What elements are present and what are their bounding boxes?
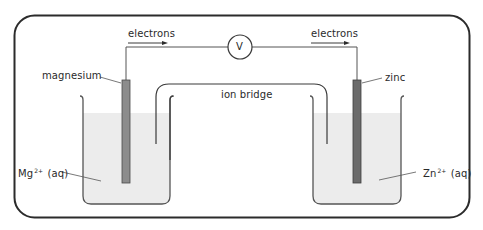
voltmeter-label: V (236, 42, 243, 52)
ion-bridge-label: ion bridge (221, 90, 273, 100)
zn-ion-state: (aq) (451, 168, 472, 179)
electrons-label-left: electrons (128, 29, 175, 39)
diagram-graphics (0, 0, 483, 230)
mg-ion-state: (aq) (48, 168, 69, 179)
zinc-label: zinc (385, 73, 405, 83)
arrowhead-right-icon (344, 41, 350, 45)
zinc-leader (362, 78, 382, 83)
zn-ion-base: Zn (423, 168, 436, 179)
arrowhead-left-icon (162, 41, 168, 45)
magnesium-electrode (122, 80, 130, 183)
zinc-electrode (353, 80, 361, 183)
zn-ion-label: Zn2+ (aq) (423, 168, 471, 179)
zn-ion-charge: 2+ (437, 167, 446, 174)
wire-right (252, 47, 357, 80)
ion-bridge-inner (170, 96, 174, 160)
mg-ion-charge: 2+ (34, 167, 43, 174)
mg-ion-label: Mg2+ (aq) (18, 168, 68, 179)
wire-left (126, 47, 228, 80)
electrochemical-cell-diagram: electrons electrons V magnesium zinc ion… (0, 0, 483, 230)
magnesium-leader (100, 77, 121, 83)
mg-ion-base: Mg (18, 168, 33, 179)
magnesium-label: magnesium (42, 71, 102, 81)
electrons-label-right: electrons (311, 29, 358, 39)
